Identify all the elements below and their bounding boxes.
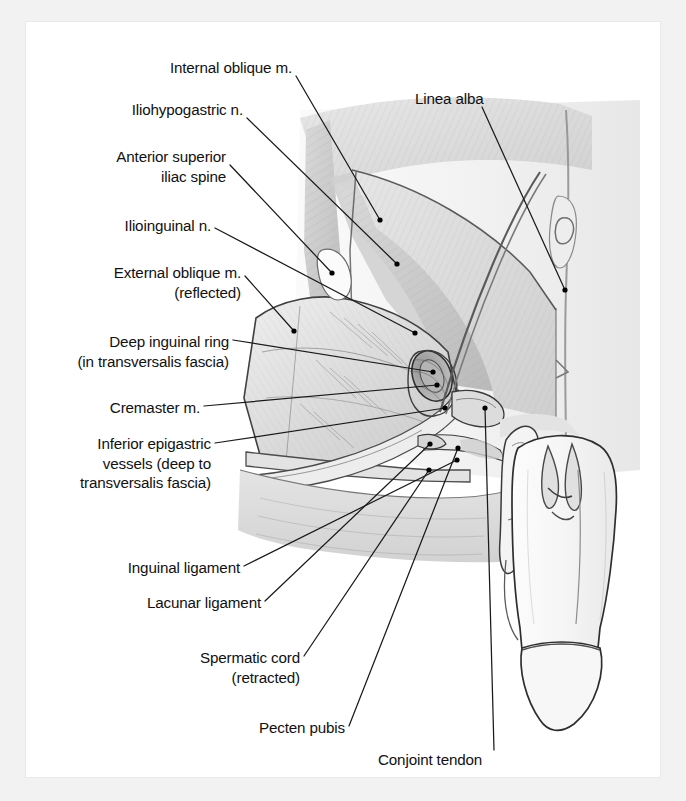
label-deep-inguinal-ring: Deep inguinal ring(in transversalis fasc…	[10, 332, 229, 371]
label-inferior-epigastric-vessels: Inferior epigastricvessels (deep totrans…	[10, 434, 211, 493]
label-internal-oblique: Internal oblique m.	[20, 58, 292, 78]
thigh-field	[238, 470, 530, 562]
anatomy-illustration-stage: Internal oblique m. Iliohypogastric n. A…	[0, 0, 686, 801]
label-external-oblique: External oblique m.(reflected)	[10, 263, 241, 302]
label-ilioinguinal-nerve: Ilioinguinal n.	[20, 216, 211, 236]
label-iliohypogastric-nerve: Iliohypogastric n.	[20, 100, 243, 120]
label-conjoint-tendon: Conjoint tendon	[378, 750, 568, 770]
label-lacunar-ligament: Lacunar ligament	[60, 593, 261, 613]
label-inguinal-ligament: Inguinal ligament	[40, 558, 240, 578]
glans-penis	[521, 642, 602, 730]
label-spermatic-cord: Spermatic cord(retracted)	[100, 648, 300, 687]
label-linea-alba: Linea alba	[415, 89, 575, 109]
label-pecten-pubis: Pecten pubis	[200, 718, 345, 738]
leader-pecten-pubis	[349, 448, 458, 726]
label-anterior-superior-iliac-spine: Anterior superioriliac spine	[20, 147, 226, 186]
label-cremaster: Cremaster m.	[10, 398, 200, 418]
